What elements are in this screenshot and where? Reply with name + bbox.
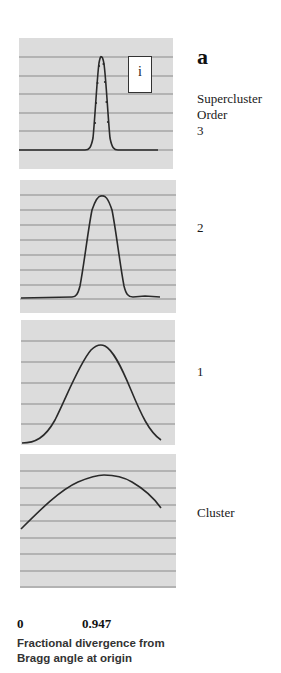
gridlines	[20, 471, 176, 587]
x-axis-caption: Fractional divergence from Bragg angle a…	[17, 636, 217, 666]
curve-order-1	[22, 345, 161, 443]
x-axis-caption-line1: Fractional divergence from	[17, 636, 217, 651]
chart-panel-cluster	[20, 454, 176, 588]
label-order-3: 3	[197, 123, 204, 139]
label-cluster: Cluster	[197, 505, 235, 521]
plot-cluster	[20, 454, 176, 588]
x-axis-caption-line2: Bragg angle at origin	[17, 651, 217, 666]
label-order-2: 2	[197, 220, 204, 236]
x-tick-left: 0	[17, 617, 24, 631]
inset-label-box: i	[128, 56, 152, 93]
panel-letter: a	[197, 46, 208, 68]
plot-order-2	[20, 180, 176, 313]
label-order-1: 1	[197, 364, 204, 380]
gridlines	[21, 341, 175, 424]
chart-panel-order-1	[21, 320, 175, 445]
supercluster-heading: Supercluster	[197, 91, 262, 107]
order-heading: Order	[197, 107, 227, 123]
plot-order-1	[21, 320, 175, 445]
chart-panel-order-3: i	[19, 38, 173, 169]
curve-order-2	[21, 196, 160, 298]
inset-label: i	[138, 64, 142, 79]
x-tick-right: 0.947	[82, 617, 111, 631]
chart-panel-order-2	[20, 180, 176, 313]
gridlines	[20, 195, 176, 299]
